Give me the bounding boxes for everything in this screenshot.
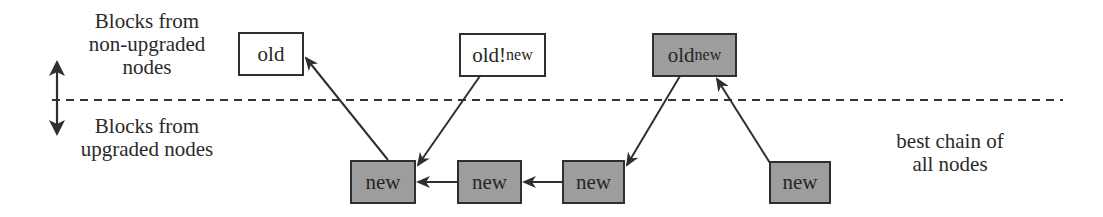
legend-upgraded-label: Blocks from upgraded nodes [62,115,232,161]
block-label-main: old [668,43,695,68]
edge-oldnew-to-new3 [627,76,680,165]
edge-new4-to-oldnew [717,79,770,163]
legend-top-line-3: nodes [62,56,232,79]
block-label-small: new [506,46,533,64]
block-label-small: new [695,46,722,64]
block-new-1: new [350,160,416,204]
block-oldnew: oldnew [652,33,737,77]
edge-new1-to-old [306,58,388,160]
block-label-main: old! [472,43,506,68]
legend-bottom-line-2: upgraded nodes [62,138,232,161]
block-label: new [576,170,611,195]
legend-top-line-1: Blocks from [62,10,232,33]
block-new-4: new [769,161,831,204]
annotation-line-2: all nodes [865,153,1035,176]
block-old: old [238,32,304,76]
annotation-line-1: best chain of [865,130,1035,153]
block-label: old [258,42,285,67]
legend-non-upgraded-label: Blocks from non-upgraded nodes [62,10,232,79]
legend-top-line-2: non-upgraded [62,33,232,56]
block-label: new [472,170,507,195]
legend-bottom-line-1: Blocks from [62,115,232,138]
block-label: new [366,170,401,195]
edge-oldnotnew-to-new1 [418,76,480,165]
block-new-3: new [562,160,625,204]
block-label: new [783,170,818,195]
block-new-2: new [457,160,522,204]
block-old-not-new: old!new [459,33,546,77]
best-chain-annotation: best chain of all nodes [865,130,1035,176]
